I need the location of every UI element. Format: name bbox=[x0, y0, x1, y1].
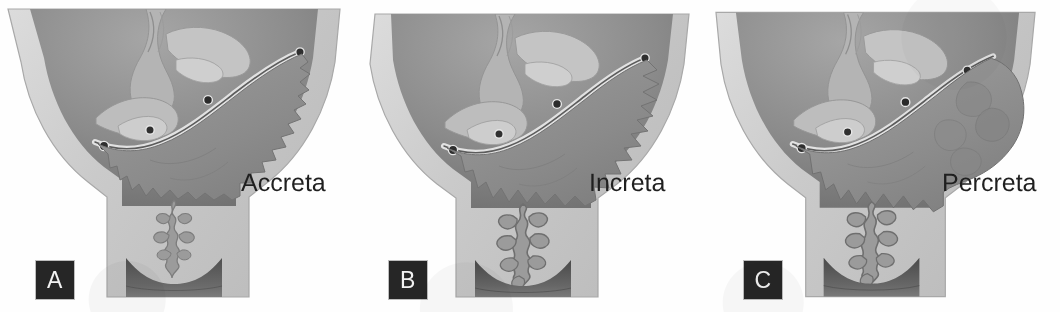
panel-badge-b: B bbox=[389, 261, 427, 299]
panel-badge-c-letter: C bbox=[754, 269, 771, 292]
panel-label-accreta: Accreta bbox=[241, 169, 326, 198]
panel-badge-b-letter: B bbox=[400, 269, 416, 292]
panel-badge-a: A bbox=[36, 261, 74, 299]
panel-badge-a-letter: A bbox=[47, 269, 63, 292]
panel-badge-c: C bbox=[744, 261, 782, 299]
placenta-accreta-spectrum-figure: A B C Accreta Increta Percreta bbox=[0, 0, 1060, 312]
panel-label-percreta: Percreta bbox=[942, 169, 1036, 198]
panel-label-increta: Increta bbox=[589, 169, 665, 198]
